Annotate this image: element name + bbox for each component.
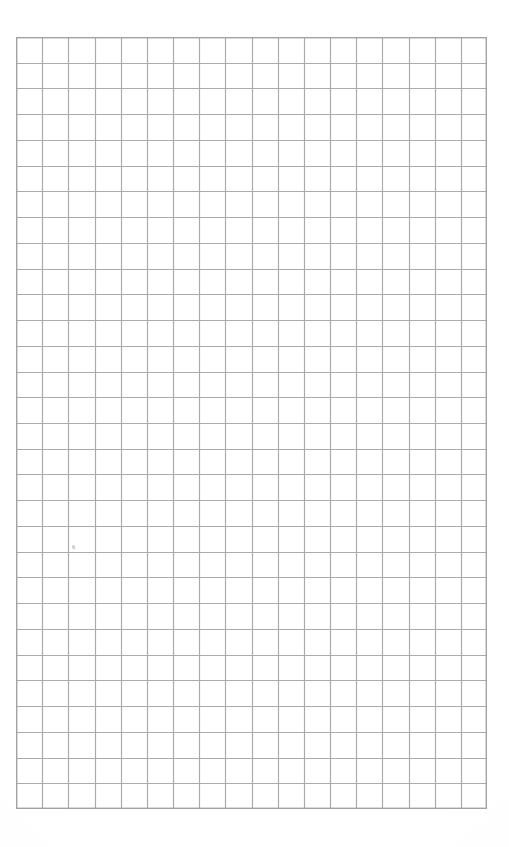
graph-paper-page bbox=[0, 0, 509, 847]
grid-svg bbox=[16, 37, 487, 809]
faint-speck-secondary-icon bbox=[74, 548, 76, 550]
grid-area[interactable] bbox=[16, 37, 487, 809]
